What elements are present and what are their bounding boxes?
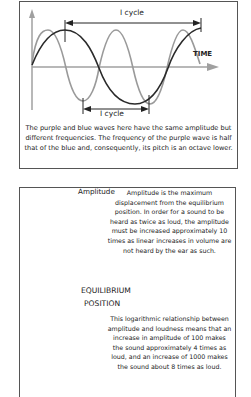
- cycle-label-bottom: I cycle: [100, 109, 124, 118]
- cycle-label-top: I cycle: [120, 8, 144, 17]
- logarithmic-description: This logarithmic relationship between am…: [107, 314, 232, 372]
- arrow-right-icon: [141, 106, 149, 112]
- time-arrow-icon: [207, 63, 219, 71]
- frequency-caption: The purple and blue waves here have the …: [22, 123, 235, 153]
- arrow-left-icon: [65, 20, 73, 26]
- axis-arrow-up-icon: [29, 9, 35, 18]
- arrow-left-icon: [83, 106, 91, 112]
- amplitude-description: Amplitude is the maximum displacement fr…: [107, 188, 232, 255]
- arrow-right-icon: [193, 20, 201, 26]
- equilibrium-label: EQUILIBRIUM: [81, 286, 131, 295]
- time-axis-label: TIME: [193, 50, 212, 58]
- position-label: POSITION: [84, 299, 120, 308]
